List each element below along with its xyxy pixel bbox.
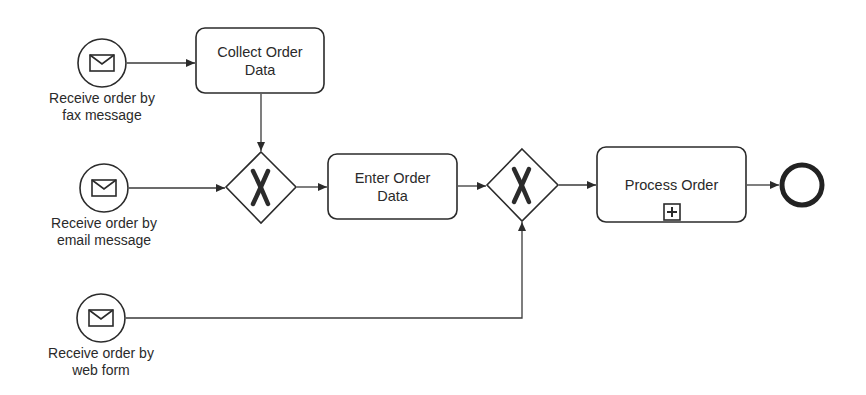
exclusive-gateway-1[interactable] <box>226 152 296 223</box>
start-event-fax[interactable] <box>78 39 126 87</box>
start-email-label-line2: email message <box>34 232 174 249</box>
task-enter-label-line2: Data <box>355 187 431 205</box>
task-collect-label-line1: Collect Order <box>217 43 302 61</box>
start-web-label: Receive order by web form <box>31 345 171 379</box>
start-fax-label: Receive order by fax message <box>32 90 172 124</box>
envelope-icon <box>92 180 116 196</box>
flow-web-to-xor2[interactable] <box>126 222 522 318</box>
task-enter-label-line1: Enter Order <box>355 169 431 187</box>
start-fax-label-line2: fax message <box>32 107 172 124</box>
start-event-email[interactable] <box>80 164 128 212</box>
task-process-label-line1: Process Order <box>625 176 718 194</box>
task-collect-label-line2: Data <box>217 61 302 79</box>
start-fax-label-line1: Receive order by <box>32 90 172 107</box>
task-process-label: Process Order <box>597 147 746 222</box>
exclusive-gateway-2[interactable] <box>487 149 558 221</box>
start-web-label-line1: Receive order by <box>31 345 171 362</box>
start-email-label-line1: Receive order by <box>34 215 174 232</box>
task-enter-label: Enter Order Data <box>328 154 457 219</box>
start-event-web[interactable] <box>77 294 125 342</box>
envelope-icon <box>90 55 114 71</box>
start-email-label: Receive order by email message <box>34 215 174 249</box>
task-collect-label: Collect Order Data <box>196 28 324 93</box>
start-web-label-line2: web form <box>31 362 171 379</box>
end-event[interactable] <box>782 165 822 205</box>
envelope-icon <box>89 310 113 326</box>
